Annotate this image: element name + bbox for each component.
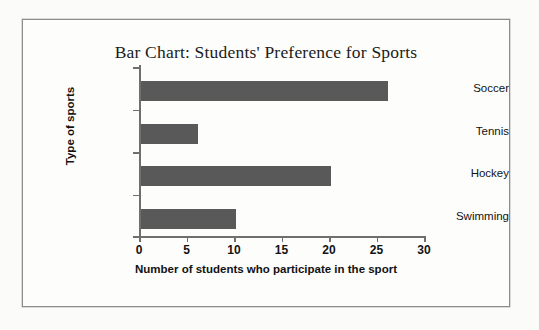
- x-axis-tick: [234, 237, 236, 242]
- x-axis-title: Number of students who participate in th…: [23, 263, 509, 275]
- screenshot-canvas: Bar Chart: Students' Preference for Spor…: [0, 0, 539, 330]
- y-axis-tick: [133, 67, 139, 69]
- x-axis-tick: [424, 237, 426, 242]
- chart-frame: Bar Chart: Students' Preference for Spor…: [22, 19, 510, 307]
- x-axis-tick: [282, 237, 284, 242]
- x-axis-tick: [377, 237, 379, 242]
- y-axis-tick: [133, 110, 139, 112]
- bar-hockey: [141, 166, 331, 186]
- bar-soccer: [141, 81, 388, 101]
- y-axis-tick-label: Tennis: [405, 125, 509, 137]
- x-axis-tick-label: 30: [404, 243, 444, 257]
- x-axis-tick-label: 15: [262, 243, 302, 257]
- y-axis-tick-label: Hockey: [405, 167, 509, 179]
- y-axis-tick-label: Soccer: [405, 82, 509, 94]
- bar-swimming: [141, 209, 236, 229]
- x-axis-tick: [139, 237, 141, 242]
- x-axis-tick-label: 0: [119, 243, 159, 257]
- x-axis-tick-label: 25: [357, 243, 397, 257]
- y-axis-tick: [133, 195, 139, 197]
- x-axis-tick: [187, 237, 189, 242]
- bar-tennis: [141, 124, 198, 144]
- y-axis-title: Type of sports: [64, 71, 76, 181]
- x-axis-tick-label: 10: [214, 243, 254, 257]
- chart-title: Bar Chart: Students' Preference for Spor…: [23, 42, 509, 63]
- y-axis-tick-label: Swimming: [405, 210, 509, 222]
- x-axis-tick-label: 20: [309, 243, 349, 257]
- x-axis-tick: [329, 237, 331, 242]
- x-axis-tick-label: 5: [167, 243, 207, 257]
- y-axis-tick: [133, 152, 139, 154]
